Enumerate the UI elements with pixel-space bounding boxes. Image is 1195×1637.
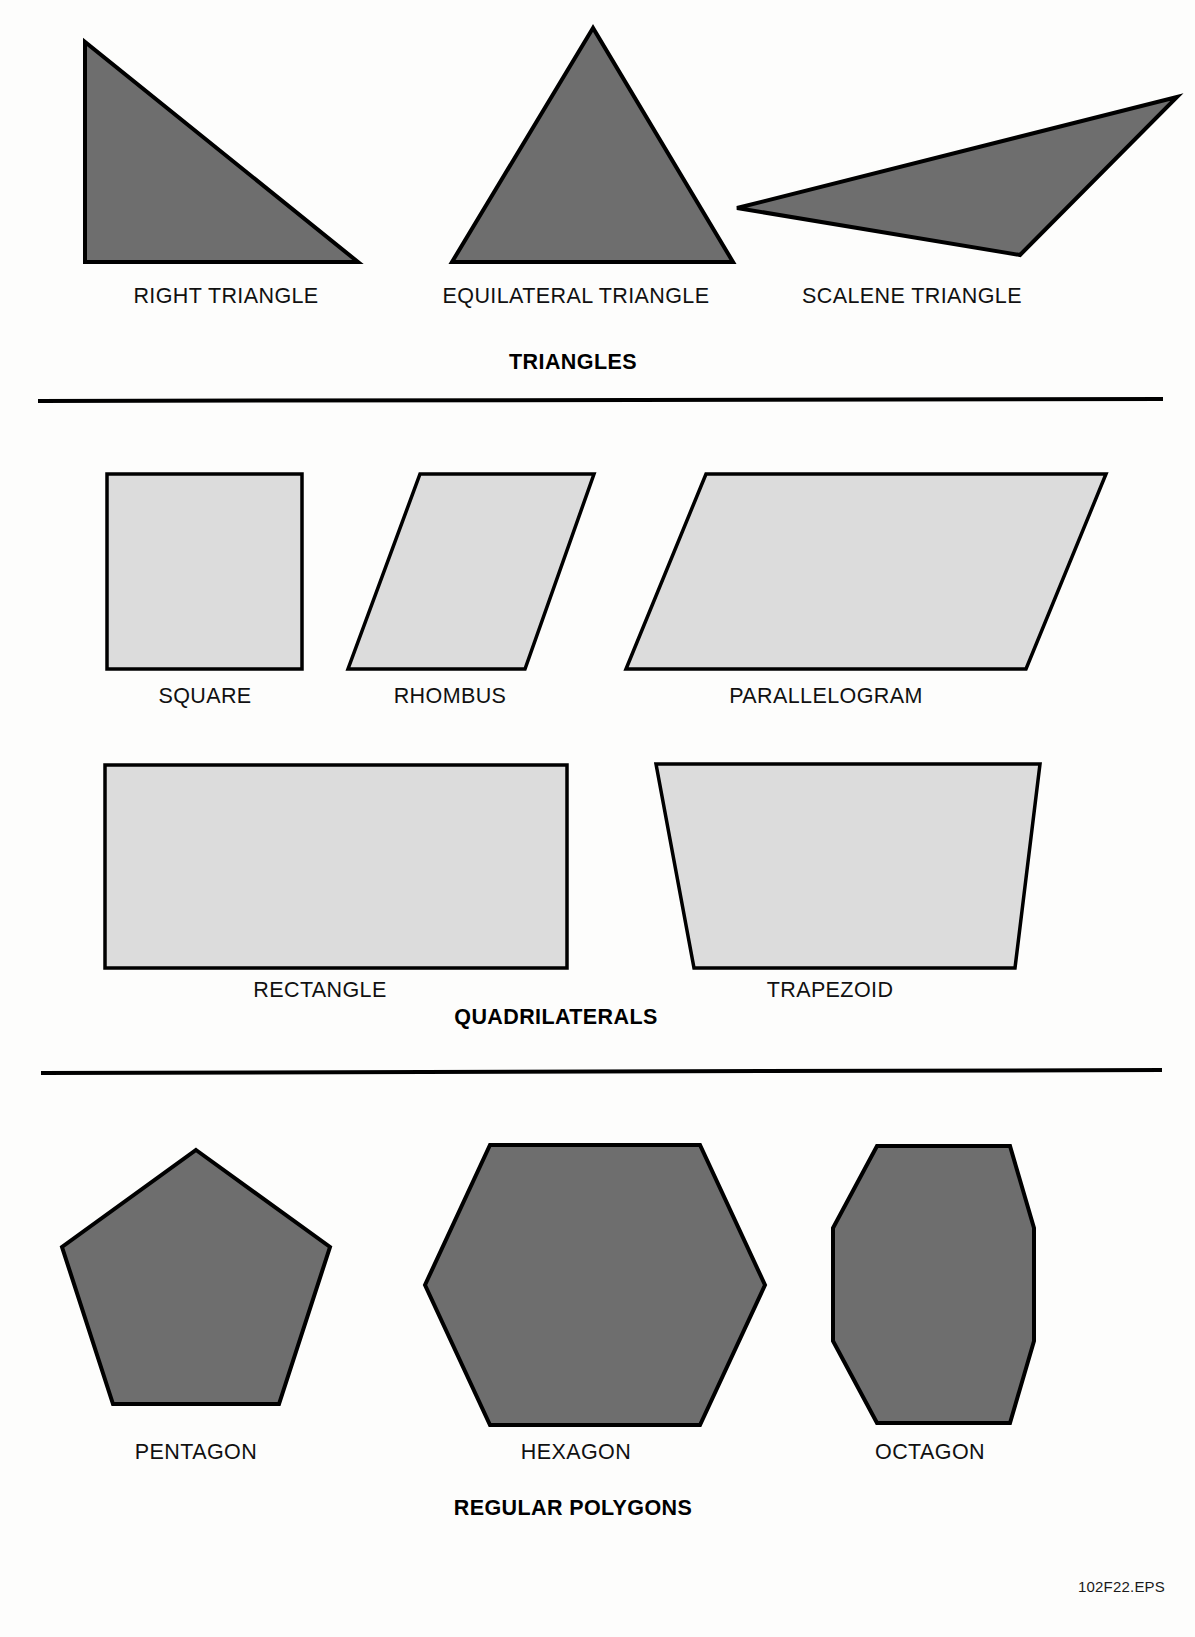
label-equilateral-triangle: EQUILATERAL TRIANGLE [443,284,710,309]
equilateral-triangle-shape [452,28,733,262]
scalene-triangle-shape [737,97,1177,255]
label-trapezoid: TRAPEZOID [767,978,894,1003]
label-scalene-triangle: SCALENE TRIANGLE [802,284,1022,309]
label-octagon: OCTAGON [875,1440,985,1465]
label-rhombus: RHOMBUS [394,684,507,709]
figure-code: 102F22.EPS [1078,1578,1165,1595]
divider-quadrilaterals-polygons [41,1070,1162,1073]
geometry-shapes-figure: RIGHT TRIANGLE EQUILATERAL TRIANGLE SCAL… [0,0,1195,1637]
label-parallelogram: PARALLELOGRAM [729,684,923,709]
label-right-triangle: RIGHT TRIANGLE [133,284,318,309]
shapes-canvas [0,0,1195,1637]
label-rectangle: RECTANGLE [253,978,386,1003]
trapezoid-shape [656,764,1040,968]
rhombus-shape [348,474,594,669]
label-hexagon: HEXAGON [521,1440,631,1465]
rectangle-shape [105,765,567,968]
label-square: SQUARE [158,684,251,709]
parallelogram-shape [626,474,1106,669]
section-heading-quadrilaterals: QUADRILATERALS [454,1005,657,1030]
square-shape [107,474,302,669]
hexagon-shape [425,1145,765,1425]
octagon-shape [833,1146,1034,1423]
section-heading-triangles: TRIANGLES [509,350,637,375]
section-heading-regular-polygons: REGULAR POLYGONS [454,1496,693,1521]
pentagon-shape [62,1150,330,1404]
divider-triangles-quadrilaterals [38,399,1163,401]
label-pentagon: PENTAGON [135,1440,257,1465]
right-triangle-shape [85,42,358,262]
